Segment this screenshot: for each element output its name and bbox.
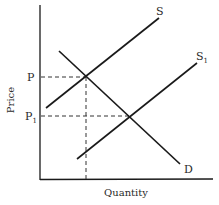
supply-curve-s1 xyxy=(77,63,197,159)
label-s: S xyxy=(156,5,164,18)
label-d: D xyxy=(184,163,193,176)
demand-curve-d xyxy=(59,51,180,164)
label-s1: S1 xyxy=(196,50,208,65)
x-axis xyxy=(40,179,213,180)
label-p: P xyxy=(27,71,35,84)
y-axis-title: Price xyxy=(5,87,16,113)
supply-curve-s xyxy=(46,18,159,108)
x-axis-title: Quantity xyxy=(104,187,148,198)
label-p1: P1 xyxy=(25,110,37,125)
supply-demand-diagram: S S1 D P P1 Price Quantity xyxy=(0,0,219,205)
p-guide-lines xyxy=(41,77,86,179)
diagram-canvas: S S1 D P P1 Price Quantity xyxy=(0,0,219,205)
